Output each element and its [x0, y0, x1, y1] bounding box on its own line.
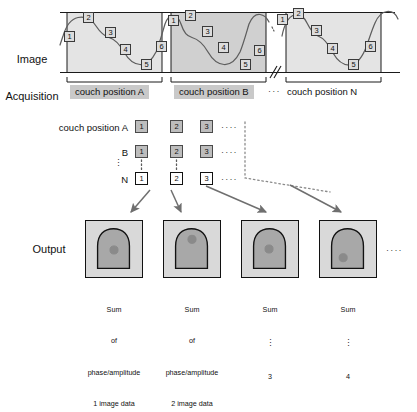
phase-bin-chip-n1: 1 — [277, 14, 288, 25]
output-image-4-caption-dots: ⋮ — [306, 340, 390, 347]
matrix-row-vertical-dots: ⋮ — [108, 160, 128, 167]
matrix-row-b-trailing: ···· — [221, 147, 238, 157]
output-image-4-content — [320, 221, 376, 277]
matrix-cell-b1: 1 — [135, 145, 148, 158]
phase-bin-chip-a2: 2 — [83, 12, 94, 23]
output-image-2-caption-line3: phase/amplitude — [150, 368, 234, 378]
phase-bin-chip-n6: 6 — [365, 41, 376, 52]
phase-bin-chip-a1: 1 — [64, 31, 75, 42]
phase-bin-chip-b4: 4 — [218, 42, 229, 53]
couch-position-a-tag: couch position A — [70, 85, 149, 99]
output-image-1-caption-line2: of — [72, 336, 156, 346]
matrix-cell-a2: 2 — [170, 120, 183, 133]
couch-position-b-tag: couch position B — [174, 85, 254, 99]
matrix-row-n-trailing: ···· — [221, 174, 238, 184]
matrix-cell-n3: 3 — [200, 172, 213, 185]
output-image-1-content — [86, 221, 142, 277]
image-acquisition-label: Image Acquisition — [4, 28, 60, 127]
matrix-row-label-n: N — [30, 175, 128, 186]
couch-break-ellipsis: ··· — [268, 86, 281, 96]
phase-bin-chip-b3: 3 — [202, 26, 213, 37]
output-image-2-caption-line2: of — [150, 336, 234, 346]
output-image-4 — [319, 220, 377, 278]
output-image-2-lesion — [188, 235, 196, 243]
phase-bin-chip-n3: 3 — [311, 25, 322, 36]
phase-bin-chip-n4: 4 — [327, 43, 338, 54]
output-image-3-caption: Sum ⋮ 3 — [228, 284, 312, 404]
phase-bin-chip-a3: 3 — [105, 27, 116, 38]
phase-bin-chip-a6: 6 — [156, 41, 167, 52]
phase-bin-chip-n2: 2 — [293, 8, 304, 19]
output-image-4-caption: Sum ⋮ 4 — [306, 284, 390, 404]
output-image-3-lesion — [265, 245, 273, 253]
output-image-3-caption-line3: 3 — [228, 372, 312, 382]
phase-bin-chip-a5: 5 — [141, 59, 152, 70]
output-image-1-lesion — [110, 246, 118, 254]
output-image-3-content — [242, 221, 298, 277]
matrix-cell-b3: 3 — [200, 145, 213, 158]
output-image-1-caption: Sum of phase/amplitude 1 image data — [72, 284, 156, 412]
output-image-1-caption-line3: phase/amplitude — [72, 368, 156, 378]
output-image-3 — [241, 220, 299, 278]
matrix-cell-b2: 2 — [170, 145, 183, 158]
matrix-row-a-trailing: ···· — [221, 122, 238, 132]
phase-bin-chip-b1: 1 — [168, 15, 179, 26]
matrix-cell-n1: 1 — [135, 172, 148, 185]
output-image-3-caption-dots: ⋮ — [228, 340, 312, 347]
output-image-2-caption: Sum of phase/amplitude 2 image data — [150, 284, 234, 412]
output-image-2-caption-line4: 2 image data — [150, 399, 234, 409]
output-trailing-ellipsis: ···· — [386, 245, 403, 255]
output-image-1-caption-line4: 1 image data — [72, 399, 156, 409]
image-acquisition-label-line1: Image — [4, 53, 60, 65]
couch-position-n-tag: couch position N — [285, 85, 359, 99]
image-acquisition-label-line2: Acquisition — [4, 90, 60, 102]
matrix-cell-a3: 3 — [200, 120, 213, 133]
output-image-4-caption-line3: 4 — [306, 372, 390, 382]
phase-bin-chip-n5: 5 — [348, 59, 359, 70]
matrix-cell-n2: 2 — [170, 172, 183, 185]
output-image-2 — [163, 220, 221, 278]
matrix-cell-a1: 1 — [135, 120, 148, 133]
matrix-row-label-a: couch position A — [30, 123, 128, 134]
output-label: Output — [18, 243, 80, 255]
output-image-2-caption-line1: Sum — [150, 305, 234, 315]
phase-bin-chip-b2: 2 — [185, 10, 196, 21]
output-image-4-lesion — [339, 254, 347, 262]
output-image-2-content — [164, 221, 220, 277]
output-image-3-caption-line1: Sum — [228, 305, 312, 315]
phase-bin-chip-b5: 5 — [240, 59, 251, 70]
output-image-1 — [85, 220, 143, 278]
phase-bin-chip-b6: 6 — [254, 45, 265, 56]
output-image-1-caption-line1: Sum — [72, 305, 156, 315]
output-image-4-caption-line1: Sum — [306, 305, 390, 315]
phase-bin-chip-a4: 4 — [120, 44, 131, 55]
